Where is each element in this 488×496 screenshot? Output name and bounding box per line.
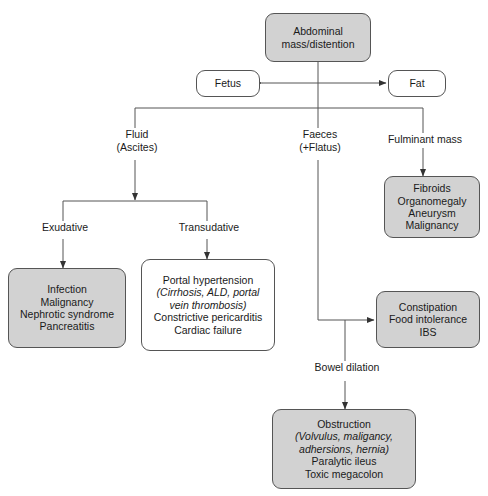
- node-line: Paralytic ileus: [312, 455, 377, 467]
- node-fat[interactable]: Fat: [388, 70, 446, 97]
- node-line: Obstruction: [317, 418, 371, 430]
- node-bowel-dilation-causes[interactable]: Obstruction (Volvulus, maligancy, adhers…: [272, 409, 416, 489]
- node-line: Malignancy: [405, 219, 458, 231]
- label-bowel-dilation: Bowel dilation: [303, 361, 391, 374]
- node-line: Organomegaly: [398, 195, 467, 207]
- flowchart-canvas: Abdominal mass/distention Fetus Fat Flui…: [0, 0, 488, 496]
- label-line: Exudative: [31, 221, 99, 234]
- label-faeces: Faeces (+Flatus): [286, 128, 354, 153]
- label-exudative: Exudative: [29, 221, 101, 234]
- label-line: Transudative: [170, 221, 248, 234]
- node-line: (Cirrhosis, ALD, portal: [157, 286, 260, 298]
- label-line: (+Flatus): [288, 141, 352, 154]
- label-line: Fluid: [105, 128, 169, 141]
- node-line: Malignancy: [40, 296, 93, 308]
- node-transudative-causes[interactable]: Portal hypertension (Cirrhosis, ALD, por…: [141, 259, 275, 351]
- node-line: Nephrotic syndrome: [20, 308, 114, 320]
- node-line: Pancreatitis: [40, 320, 95, 332]
- label-line: (Ascites): [105, 141, 169, 154]
- node-line: Abdominal: [293, 25, 343, 37]
- label-line: Faeces: [288, 128, 352, 141]
- node-abdominal-mass[interactable]: Abdominal mass/distention: [265, 13, 371, 62]
- node-line: Fibroids: [413, 182, 450, 194]
- node-line: Infection: [47, 283, 87, 295]
- node-line: mass/distention: [282, 38, 355, 50]
- node-fulminant-mass-causes[interactable]: Fibroids Organomegaly Aneurysm Malignanc…: [384, 176, 480, 238]
- label-transudative: Transudative: [168, 221, 250, 234]
- node-line: Constipation: [399, 301, 457, 313]
- node-faeces-causes[interactable]: Constipation Food intolerance IBS: [376, 291, 480, 348]
- node-line: Constrictive pericarditis: [154, 311, 263, 323]
- label-line: Fulminant mass: [383, 133, 467, 146]
- node-line: Cardiac failure: [174, 324, 242, 336]
- node-fetus[interactable]: Fetus: [196, 70, 260, 97]
- node-exudative-causes[interactable]: Infection Malignancy Nephrotic syndrome …: [8, 268, 126, 348]
- label-line: Bowel dilation: [305, 361, 389, 374]
- node-line: vein thrombosis): [169, 299, 246, 311]
- node-line: Fetus: [215, 77, 241, 89]
- node-line: Aneurysm: [408, 207, 455, 219]
- node-line: (Volvulus, maligancy,: [295, 430, 393, 442]
- node-line: Portal hypertension: [163, 274, 253, 286]
- node-line: adhersions, hernia): [299, 443, 389, 455]
- node-line: Toxic megacolon: [305, 468, 383, 480]
- node-line: IBS: [420, 326, 437, 338]
- label-fluid: Fluid (Ascites): [103, 128, 171, 153]
- node-line: Fat: [409, 77, 424, 89]
- node-line: Food intolerance: [389, 313, 467, 325]
- label-fulminant-mass: Fulminant mass: [381, 133, 469, 146]
